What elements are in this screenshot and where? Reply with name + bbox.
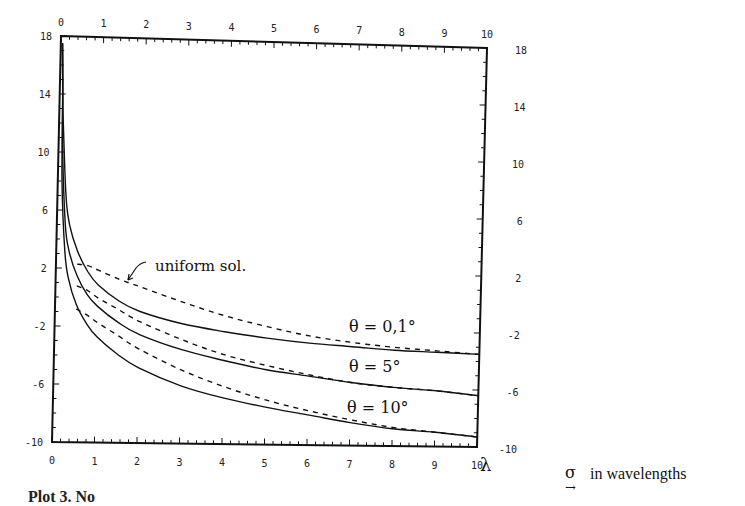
y-tick-label-right: -6 [506, 387, 518, 398]
uniform-sol-label: uniform sol. [155, 257, 246, 275]
vector-arrow-icon: → [565, 480, 576, 495]
y-tick-label-left: 14 [39, 89, 51, 100]
theta-10-label: θ = 10° [347, 398, 409, 417]
y-tick-label-right: -10 [499, 444, 517, 455]
x-tick-label-top: 5 [271, 23, 277, 34]
x-tick-label-top: 10 [481, 29, 493, 40]
y-tick-label-left: 6 [42, 205, 48, 216]
plot-border [52, 36, 487, 447]
axis-ticks [52, 36, 487, 447]
x-tick-label-bottom: 8 [389, 459, 395, 470]
figure-caption: Plot 3. No [28, 488, 95, 506]
theta-0-1-label: θ = 0,1° [349, 317, 416, 336]
x-tick-label-top: 9 [441, 28, 447, 39]
exact-curve [62, 43, 478, 395]
y-tick-label-left: -2 [34, 321, 46, 332]
y-tick-label-right: -2 [508, 330, 520, 341]
x-tick-label-bottom: 6 [304, 458, 310, 469]
x-axis-unit-label: in wavelengths [590, 465, 686, 483]
uniform-solution-curve [77, 264, 479, 354]
x-tick-label-top: 7 [356, 25, 362, 36]
y-tick-label-left: 2 [41, 263, 47, 274]
exact-curve [63, 43, 480, 354]
x-tick-label-top: 0 [58, 17, 64, 28]
x-tick-label-bottom: 7 [346, 459, 352, 470]
y-tick-label-right: 2 [515, 273, 521, 284]
plot-frame [52, 36, 487, 447]
y-tick-label-left: -6 [32, 379, 44, 390]
data-curves [62, 43, 479, 437]
exact-curve [62, 43, 477, 437]
lambda-unit-label: λ [480, 454, 491, 475]
x-tick-label-top: 6 [314, 24, 320, 35]
x-tick-label-bottom: 2 [134, 456, 140, 467]
x-tick-label-bottom: 9 [431, 460, 437, 471]
y-tick-label-left: 10 [37, 147, 49, 158]
x-tick-label-bottom: 0 [49, 455, 55, 466]
x-tick-label-top: 3 [186, 21, 192, 32]
y-tick-label-right: 18 [515, 45, 527, 56]
y-tick-label-right: 14 [514, 102, 526, 113]
uniform-solution-curve [77, 286, 479, 396]
x-tick-label-bottom: 5 [261, 458, 267, 469]
y-tick-label-left: -10 [25, 437, 43, 448]
x-tick-label-bottom: 3 [176, 457, 182, 468]
x-tick-label-bottom: 4 [219, 457, 225, 468]
y-tick-label-left: 18 [40, 31, 52, 42]
x-tick-label-top: 1 [101, 18, 107, 29]
annotation-arrow-icon [128, 262, 146, 280]
x-tick-label-top: 4 [228, 22, 234, 33]
theta-5-label: θ = 5° [349, 357, 400, 376]
y-tick-label-right: 6 [517, 216, 523, 227]
y-tick-label-right: 10 [512, 159, 524, 170]
x-tick-label-top: 8 [399, 27, 405, 38]
x-tick-label-top: 2 [143, 19, 149, 30]
x-tick-label-bottom: 1 [91, 456, 97, 467]
